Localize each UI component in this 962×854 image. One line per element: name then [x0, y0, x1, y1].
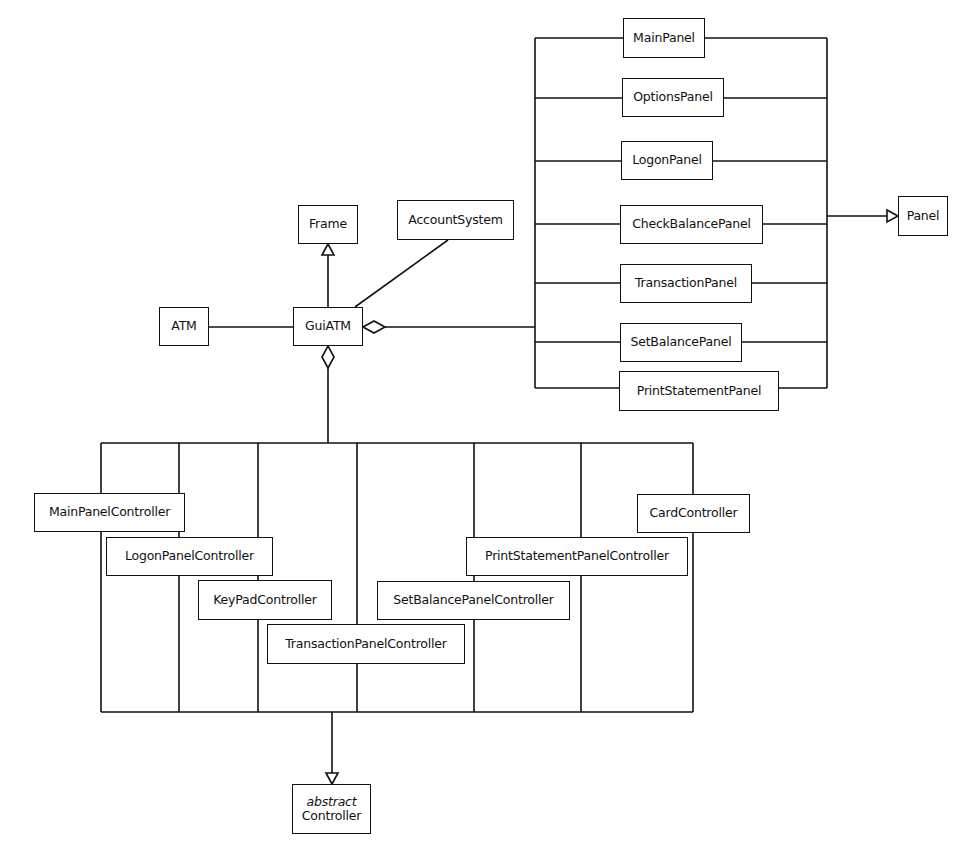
- class-logon-panel-controller[interactable]: LogonPanelController: [106, 537, 273, 576]
- class-panel[interactable]: Panel: [898, 196, 948, 236]
- class-name: LogonPanel: [632, 153, 702, 167]
- connector-lines: [0, 0, 962, 854]
- class-name: Frame: [309, 217, 347, 231]
- class-name: PrintStatementPanel: [637, 384, 761, 398]
- class-options-panel[interactable]: OptionsPanel: [622, 78, 724, 117]
- generalization-arrow-icon: [322, 244, 334, 255]
- class-name: AccountSystem: [408, 213, 502, 227]
- class-name: SetBalancePanelController: [393, 593, 554, 607]
- class-name: CardController: [650, 506, 738, 520]
- class-name: Panel: [907, 209, 940, 223]
- class-stereotype: abstract: [307, 795, 357, 809]
- class-set-balance-panel-controller[interactable]: SetBalancePanelController: [377, 581, 570, 620]
- class-name: TransactionPanel: [635, 276, 737, 290]
- class-transaction-panel-controller[interactable]: TransactionPanelController: [267, 624, 465, 664]
- class-name: ATM: [171, 319, 196, 333]
- class-name: MainPanelController: [49, 505, 170, 519]
- class-name: LogonPanelController: [125, 549, 254, 563]
- class-atm[interactable]: ATM: [159, 307, 209, 346]
- class-main-panel-controller[interactable]: MainPanelController: [34, 493, 185, 532]
- class-check-balance-panel[interactable]: CheckBalancePanel: [620, 205, 763, 244]
- class-transaction-panel[interactable]: TransactionPanel: [620, 264, 752, 303]
- generalization-arrow-icon: [887, 210, 898, 222]
- class-name: TransactionPanelController: [285, 637, 447, 651]
- class-name: SetBalancePanel: [630, 335, 731, 349]
- class-set-balance-panel[interactable]: SetBalancePanel: [620, 323, 742, 362]
- class-account-system[interactable]: AccountSystem: [397, 200, 514, 240]
- generalization-arrow-icon: [326, 773, 338, 784]
- class-logon-panel[interactable]: LogonPanel: [621, 141, 713, 180]
- class-print-statement-panel-controller[interactable]: PrintStatementPanelController: [466, 537, 688, 576]
- aggregation-diamond-icon: [322, 346, 334, 368]
- class-name: GuiATM: [305, 319, 351, 333]
- class-card-controller[interactable]: CardController: [637, 494, 750, 533]
- class-name: OptionsPanel: [633, 90, 713, 104]
- class-main-panel[interactable]: MainPanel: [623, 18, 705, 58]
- class-name: KeyPadController: [213, 593, 317, 607]
- aggregation-diamond-icon: [363, 321, 385, 333]
- class-name: MainPanel: [633, 31, 695, 45]
- class-frame[interactable]: Frame: [298, 205, 358, 244]
- class-gui-atm[interactable]: GuiATM: [293, 307, 363, 346]
- class-name: Controller: [302, 809, 362, 823]
- class-name: PrintStatementPanelController: [485, 549, 669, 563]
- class-abstract-controller[interactable]: abstract Controller: [292, 784, 371, 834]
- class-keypad-controller[interactable]: KeyPadController: [198, 580, 332, 620]
- class-print-statement-panel[interactable]: PrintStatementPanel: [619, 371, 779, 411]
- class-name: CheckBalancePanel: [632, 217, 751, 231]
